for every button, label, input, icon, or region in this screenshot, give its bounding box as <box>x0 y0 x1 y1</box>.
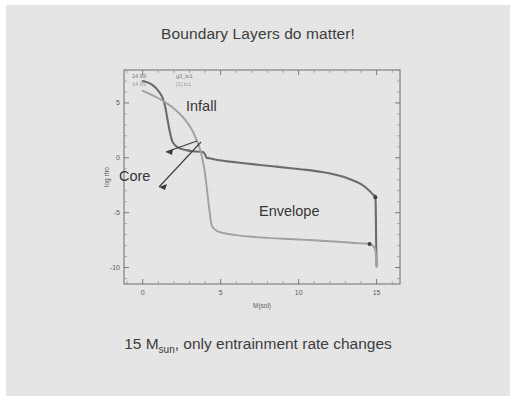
annotation-envelope: Envelope <box>259 203 319 219</box>
endpoint-g3_lo1 <box>373 195 377 199</box>
presentation-slide: Boundary Layers do matter! 05101550-5-10… <box>6 5 510 396</box>
chart-tick-labels: 05101550-5-10 <box>110 99 381 296</box>
caption-mass: 15 M <box>124 335 158 352</box>
svg-text:-10: -10 <box>110 264 120 271</box>
x-axis-title: M(sol) <box>253 302 271 310</box>
svg-text:0: 0 <box>116 154 120 161</box>
curve-g3_lo1 <box>143 81 377 266</box>
curve-[1] lo1 <box>143 91 377 267</box>
annotation-infall: Infall <box>186 98 217 114</box>
corner-label-value-2: 14.99 <box>132 81 146 87</box>
chart-svg: 05101550-5-10 M(sol) log rho 14.99 g3_lo… <box>102 62 407 310</box>
annotation-core: Core <box>119 168 150 184</box>
svg-text:5: 5 <box>219 289 223 296</box>
corner-label-model-2: [1] lo1 <box>176 81 191 87</box>
slide-caption: 15 Msun, only entrainment rate changes <box>6 335 510 355</box>
y-axis-title: log rho <box>103 167 111 187</box>
svg-text:15: 15 <box>373 289 381 296</box>
svg-text:10: 10 <box>295 289 303 296</box>
caption-rest: , only entrainment rate changes <box>175 335 392 352</box>
corner-label-model-1: g3_lo1 <box>176 73 193 79</box>
slide-title: Boundary Layers do matter! <box>6 25 510 43</box>
svg-text:5: 5 <box>116 99 120 106</box>
endpoint-[1] lo1 <box>368 242 372 246</box>
svg-text:-5: -5 <box>114 209 120 216</box>
corner-label-value-1: 14.99 <box>132 73 146 79</box>
svg-text:0: 0 <box>141 289 145 296</box>
caption-subscript: sun <box>159 344 175 355</box>
density-profile-chart: 05101550-5-10 M(sol) log rho 14.99 g3_lo… <box>102 62 407 310</box>
chart-curves <box>143 81 377 266</box>
